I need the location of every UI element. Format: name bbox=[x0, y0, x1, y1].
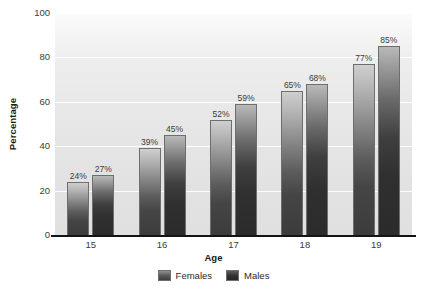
y-tick-label-40: 40 bbox=[20, 141, 50, 151]
y-axis-title: Percentage bbox=[6, 4, 20, 244]
y-tick-label-0: 0 bbox=[20, 230, 50, 240]
x-tick-label-15: 15 bbox=[71, 239, 111, 251]
bar-value-label-females-age-16: 39% bbox=[133, 137, 167, 147]
bar-males-age-15[interactable] bbox=[92, 175, 114, 235]
y-tick-label-60: 60 bbox=[20, 97, 50, 107]
legend-swatch-males bbox=[226, 270, 239, 281]
plot-area: 24%27%39%45%52%59%65%68%77%85% bbox=[55, 13, 412, 235]
bar-females-age-18[interactable] bbox=[281, 91, 303, 235]
bar-value-label-males-age-16: 45% bbox=[158, 124, 192, 134]
bar-value-label-males-age-17: 59% bbox=[229, 93, 263, 103]
y-tick-label-80: 80 bbox=[20, 52, 50, 62]
gridline-100 bbox=[55, 13, 412, 14]
legend-label-males: Males bbox=[244, 270, 269, 281]
bar-males-age-16[interactable] bbox=[164, 135, 186, 235]
bar-females-age-15[interactable] bbox=[67, 182, 89, 235]
bar-value-label-males-age-15: 27% bbox=[86, 164, 120, 174]
legend-swatch-females bbox=[158, 270, 171, 281]
bar-value-label-females-age-19: 77% bbox=[347, 53, 381, 63]
y-axis-tick-labels: 100806040200 bbox=[20, 0, 50, 293]
bar-females-age-16[interactable] bbox=[139, 148, 161, 235]
legend-item-females[interactable]: Females bbox=[158, 270, 212, 281]
bar-males-age-18[interactable] bbox=[306, 84, 328, 235]
bar-chart: Percentage 100806040200 24%27%39%45%52%5… bbox=[0, 0, 427, 293]
legend-item-males[interactable]: Males bbox=[226, 270, 269, 281]
bar-value-label-males-age-19: 85% bbox=[372, 35, 406, 45]
x-tick-label-18: 18 bbox=[285, 239, 325, 251]
x-tick-label-16: 16 bbox=[142, 239, 182, 251]
chart-legend: FemalesMales bbox=[0, 270, 427, 281]
x-tick-label-19: 19 bbox=[356, 239, 396, 251]
bar-females-age-17[interactable] bbox=[210, 120, 232, 235]
y-tick-label-20: 20 bbox=[20, 186, 50, 196]
bar-value-label-males-age-18: 68% bbox=[300, 73, 334, 83]
x-axis-line bbox=[51, 235, 416, 237]
x-tick-label-17: 17 bbox=[214, 239, 254, 251]
y-tick-label-100: 100 bbox=[20, 8, 50, 18]
bar-males-age-19[interactable] bbox=[378, 46, 400, 235]
bar-males-age-17[interactable] bbox=[235, 104, 257, 235]
bar-value-label-females-age-17: 52% bbox=[204, 109, 238, 119]
x-axis-title: Age bbox=[0, 252, 427, 263]
legend-label-females: Females bbox=[176, 270, 212, 281]
bar-females-age-19[interactable] bbox=[353, 64, 375, 235]
